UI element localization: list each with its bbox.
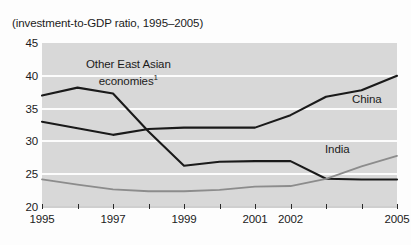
series-lines <box>0 0 411 245</box>
series-line-other-east-asian-economies <box>42 88 397 180</box>
series-label-other-east-asian: Other East Asian economies1 <box>86 57 171 88</box>
footnote-marker: 1 <box>154 73 158 82</box>
series-label-other-line1: Other East Asian <box>86 58 171 70</box>
series-label-india: India <box>325 143 349 155</box>
series-label-other-line2-text: economies <box>99 75 154 87</box>
series-label-china: China <box>352 93 382 105</box>
series-label-other-line2: economies1 <box>86 71 171 88</box>
chart-figure: (investment-to-GDP ratio, 1995–2005) 454… <box>0 0 411 245</box>
